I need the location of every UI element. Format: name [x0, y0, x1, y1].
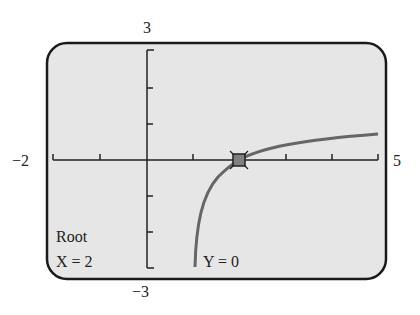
y-value-label: Y = 0	[203, 254, 239, 270]
x-value-label: X = 2	[56, 254, 93, 270]
y-min-label: −3	[132, 284, 149, 300]
root-marker-icon	[230, 151, 248, 169]
root-label: Root	[56, 229, 87, 245]
x-min-label: −2	[12, 153, 29, 169]
x-max-label: 5	[393, 153, 401, 169]
screen-frame	[47, 43, 386, 279]
y-max-label: 3	[143, 20, 151, 36]
